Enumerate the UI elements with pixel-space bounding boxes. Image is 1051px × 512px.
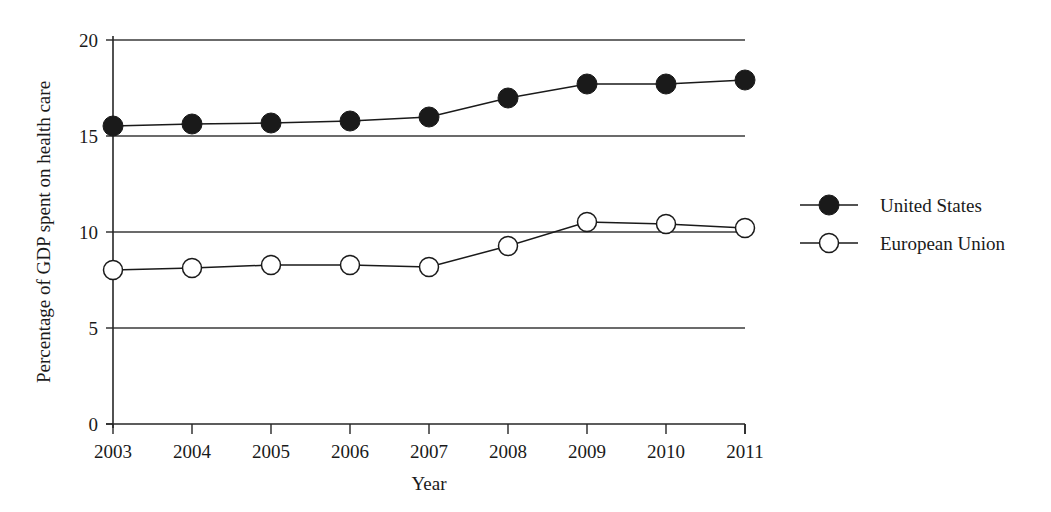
data-point-eu-2005 — [262, 256, 281, 275]
data-point-us-2005 — [261, 113, 281, 133]
y-tick-label-15: 15 — [79, 126, 98, 147]
x-axis-title: Year — [411, 473, 447, 494]
data-point-us-2010 — [656, 74, 676, 94]
series-united-states — [103, 70, 755, 136]
data-point-us-2004 — [182, 114, 202, 134]
legend-label-european-union: European Union — [880, 233, 1006, 254]
y-tick-label-20: 20 — [79, 30, 98, 51]
legend-label-united-states: United States — [880, 195, 982, 216]
y-tick-marks — [106, 40, 113, 424]
x-tick-marks — [113, 424, 745, 434]
data-point-us-2007 — [419, 107, 439, 127]
y-tick-label-10: 10 — [79, 222, 98, 243]
x-tick-label-2007: 2007 — [410, 441, 448, 462]
y-tick-label-5: 5 — [89, 318, 99, 339]
legend-item-united-states[interactable]: United States — [800, 195, 982, 216]
legend-marker-open-circle-icon — [820, 234, 839, 253]
data-point-us-2011 — [735, 70, 755, 90]
data-point-eu-2009 — [578, 213, 597, 232]
legend-item-european-union[interactable]: European Union — [800, 233, 1006, 254]
x-tick-label-2003: 2003 — [94, 441, 132, 462]
data-point-us-2009 — [577, 74, 597, 94]
gridlines — [113, 40, 745, 328]
data-point-eu-2006 — [341, 256, 360, 275]
y-axis-title: Percentage of GDP spent on health care — [33, 81, 54, 383]
x-tick-labels: 2003 2004 2005 2006 2007 2008 2009 2010 … — [94, 441, 764, 462]
data-point-eu-2003 — [104, 261, 123, 280]
chart-page: 20 15 10 5 0 2003 2004 2005 2006 2007 20… — [0, 0, 1051, 512]
x-tick-label-2010: 2010 — [647, 441, 685, 462]
data-point-eu-2010 — [657, 215, 676, 234]
y-tick-labels: 20 15 10 5 0 — [79, 30, 98, 435]
data-point-eu-2007 — [420, 258, 439, 277]
data-point-eu-2011 — [736, 219, 755, 238]
x-tick-label-2009: 2009 — [568, 441, 606, 462]
data-point-us-2003 — [103, 116, 123, 136]
data-point-eu-2008 — [499, 237, 518, 256]
series-european-union — [104, 213, 755, 280]
y-tick-label-0: 0 — [89, 414, 99, 435]
x-tick-label-2011: 2011 — [726, 441, 763, 462]
data-point-us-2006 — [340, 111, 360, 131]
chart-legend: United States European Union — [800, 195, 1006, 254]
x-tick-label-2006: 2006 — [331, 441, 369, 462]
x-tick-label-2005: 2005 — [252, 441, 290, 462]
x-tick-label-2008: 2008 — [489, 441, 527, 462]
legend-marker-filled-circle-icon — [819, 195, 839, 215]
data-point-us-2008 — [498, 88, 518, 108]
line-chart: 20 15 10 5 0 2003 2004 2005 2006 2007 20… — [0, 0, 1051, 512]
x-tick-label-2004: 2004 — [173, 441, 212, 462]
axes — [106, 36, 745, 434]
data-point-eu-2004 — [183, 259, 202, 278]
